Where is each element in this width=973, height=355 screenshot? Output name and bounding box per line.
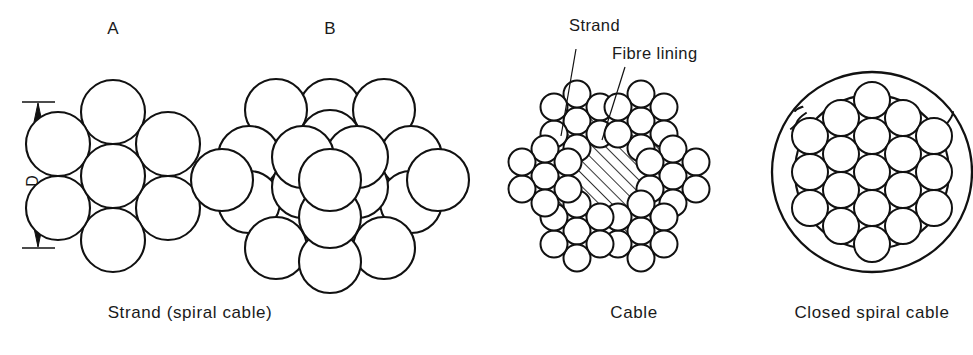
figure-root: D A Strand (spiral cable) (0, 0, 973, 355)
wire-center (81, 144, 145, 208)
wire (605, 121, 632, 148)
wire (823, 136, 859, 172)
caption-cable: Cable (610, 303, 657, 322)
wire (555, 149, 582, 176)
wire (885, 100, 921, 136)
wire (136, 112, 200, 176)
wire (854, 118, 890, 154)
caption-strand-a: Strand (spiral cable) (108, 303, 273, 322)
wire (587, 204, 614, 231)
wire (916, 154, 952, 190)
wire (26, 112, 90, 176)
wire-center (299, 149, 361, 211)
wire (509, 149, 536, 176)
wire (854, 190, 890, 226)
wire (885, 172, 921, 208)
wire (637, 149, 664, 176)
wire (136, 176, 200, 240)
wire (823, 172, 859, 208)
wire (191, 149, 253, 211)
wire (854, 226, 890, 262)
marker-b: B (324, 19, 335, 38)
wire (26, 176, 90, 240)
cable-cross-section-figure: D A Strand (spiral cable) (0, 0, 973, 355)
wire (651, 204, 678, 231)
annotation-strand: Strand (569, 16, 620, 34)
wire (245, 217, 307, 279)
wire (541, 94, 568, 121)
marker-a: A (107, 19, 119, 38)
wire (792, 190, 828, 226)
wire (353, 217, 415, 279)
caption-closed-spiral: Closed spiral cable (794, 303, 949, 322)
wire (792, 154, 828, 190)
wire (81, 80, 145, 144)
wire (885, 136, 921, 172)
wire (605, 94, 632, 121)
wire (854, 82, 890, 118)
wire (81, 208, 145, 272)
wire (792, 118, 828, 154)
wire (651, 94, 678, 121)
wire (509, 176, 536, 203)
wire (916, 118, 952, 154)
wire (916, 190, 952, 226)
wire (823, 208, 859, 244)
wire (823, 100, 859, 136)
wire (407, 149, 469, 211)
wire (541, 231, 568, 258)
wire-center (854, 154, 890, 190)
wire (885, 208, 921, 244)
wire (683, 149, 710, 176)
annotation-fibre-lining: Fibre lining (612, 44, 698, 62)
